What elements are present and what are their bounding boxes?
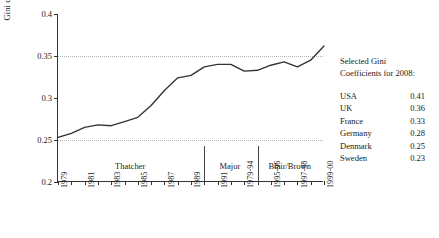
side-panel-title: Selected Gini Coefficients for 2008: (340, 56, 439, 79)
country-gini-row: Sweden0.23 (340, 152, 439, 164)
side-panel-title-line2: Coefficients for 2008: (340, 68, 439, 80)
era-label: Blair/Brown (269, 161, 312, 171)
country-name: USA (340, 90, 357, 102)
side-panel-title-line1: Selected Gini (340, 56, 439, 68)
x-tick-label: 1981 (87, 172, 96, 188)
x-tick-label: 1983 (113, 172, 122, 188)
x-tick-label: 1979 (60, 172, 69, 188)
country-gini-value: 0.28 (410, 127, 439, 139)
country-name: France (340, 115, 363, 127)
side-panel: Selected Gini Coefficients for 2008: USA… (340, 56, 439, 164)
y-tick-label: 0.4 (41, 9, 52, 19)
country-gini-row: UK0.36 (340, 102, 439, 114)
x-tick-label: 1991 (220, 172, 229, 188)
country-gini-row: Denmark0.25 (340, 140, 439, 152)
country-gini-value: 0.23 (410, 152, 439, 164)
era-label: Major (220, 161, 241, 171)
series-polyline (58, 46, 324, 138)
y-axis-title: Gini coefficient (2, 0, 12, 48)
line-chart: Gini coefficient 0.20.250.30.350.4 19791… (0, 0, 330, 238)
era-label: Thatcher (115, 161, 145, 171)
chart-page: Gini coefficient 0.20.250.30.350.4 19791… (0, 0, 439, 238)
y-tick-label: 0.2 (41, 177, 52, 187)
country-gini-value: 0.36 (410, 102, 439, 114)
x-tick-label: 1985 (140, 172, 149, 188)
country-gini-row: USA0.41 (340, 90, 439, 102)
country-name: UK (340, 102, 352, 114)
x-tick-label: 1987 (167, 172, 176, 188)
country-gini-value: 0.33 (410, 115, 439, 127)
x-tick-mark (324, 181, 325, 185)
country-gini-list: USA0.41UK0.36France0.33Germany0.28Denmar… (340, 90, 439, 164)
y-tick-label: 0.25 (37, 135, 52, 145)
plot-inner (58, 14, 323, 181)
y-axis-tick-labels: 0.20.250.30.350.4 (12, 0, 52, 238)
country-name: Denmark (340, 140, 372, 152)
x-tick-label: 1979-94 (246, 161, 255, 188)
country-gini-value: 0.25 (410, 140, 439, 152)
country-gini-value: 0.41 (410, 90, 439, 102)
y-tick-label: 0.35 (37, 51, 52, 61)
country-name: Germany (340, 127, 372, 139)
country-gini-row: Germany0.28 (340, 127, 439, 139)
x-tick-label: 1999-00 (326, 161, 335, 188)
y-tick-label: 0.3 (41, 93, 52, 103)
country-gini-row: France0.33 (340, 115, 439, 127)
x-tick-label: 1989 (193, 172, 202, 188)
country-name: Sweden (340, 152, 367, 164)
gini-series-line (58, 14, 324, 182)
plot-area (57, 14, 323, 182)
